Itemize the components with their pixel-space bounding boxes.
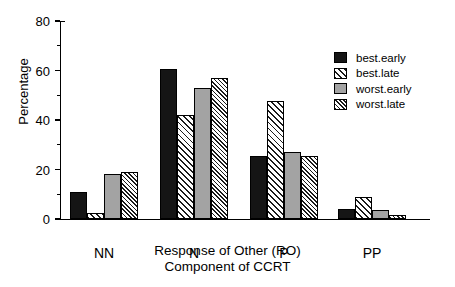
bar bbox=[267, 101, 284, 219]
y-tick-minor bbox=[57, 194, 61, 195]
y-tick-major bbox=[55, 119, 60, 120]
y-tick-minor bbox=[57, 45, 61, 46]
bar bbox=[250, 156, 267, 219]
legend-item: worst.early bbox=[334, 81, 412, 97]
bar bbox=[372, 210, 389, 219]
x-axis-title-line-1: Response of Other (RO) bbox=[0, 243, 455, 259]
y-axis-top-cap bbox=[60, 21, 65, 22]
x-axis-title-line-2: Component of CCRT bbox=[0, 259, 455, 275]
y-tick-major bbox=[55, 20, 60, 21]
legend-item: worst.late bbox=[334, 97, 412, 113]
bar-chart: Percentage 020406080 NNNPPP Response of … bbox=[0, 0, 455, 287]
legend-label: worst.early bbox=[356, 83, 412, 95]
legend-swatch-icon bbox=[334, 83, 347, 94]
y-tick-minor bbox=[57, 95, 61, 96]
bar bbox=[211, 78, 228, 219]
y-tick-label: 0 bbox=[43, 212, 50, 227]
bar bbox=[284, 152, 301, 219]
y-tick-label: 20 bbox=[36, 162, 50, 177]
legend-swatch-icon bbox=[334, 68, 347, 79]
y-tick-label: 80 bbox=[36, 14, 50, 29]
legend-label: best.late bbox=[356, 67, 399, 79]
legend-label: best.early bbox=[356, 52, 406, 64]
x-axis-line bbox=[60, 219, 430, 220]
y-tick-major bbox=[55, 218, 60, 219]
y-tick-label: 60 bbox=[36, 63, 50, 78]
bar bbox=[121, 172, 138, 219]
legend-swatch-icon bbox=[334, 52, 347, 63]
y-tick-label: 40 bbox=[36, 113, 50, 128]
bar bbox=[160, 69, 177, 219]
bar bbox=[87, 213, 104, 219]
bar bbox=[355, 197, 372, 219]
legend-item: best.late bbox=[334, 66, 412, 82]
bar bbox=[70, 192, 87, 219]
legend: best.earlybest.lateworst.earlyworst.late bbox=[334, 50, 412, 112]
y-tick-major bbox=[55, 169, 60, 170]
bar bbox=[104, 174, 121, 219]
bar bbox=[301, 156, 318, 219]
bar bbox=[177, 115, 194, 219]
y-axis-title: Percentage bbox=[16, 27, 31, 157]
bar bbox=[389, 215, 406, 219]
bar bbox=[338, 209, 355, 219]
y-axis-line bbox=[60, 21, 61, 219]
y-tick-minor bbox=[57, 144, 61, 145]
legend-label: worst.late bbox=[356, 98, 405, 110]
legend-item: best.early bbox=[334, 50, 412, 66]
x-axis-title: Response of Other (RO) Component of CCRT bbox=[0, 243, 455, 274]
y-tick-major bbox=[55, 70, 60, 71]
bar bbox=[194, 88, 211, 219]
legend-swatch-icon bbox=[334, 99, 347, 110]
